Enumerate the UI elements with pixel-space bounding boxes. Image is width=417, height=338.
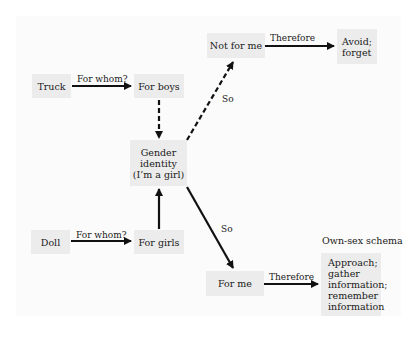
node-not-for-me: Not for me — [207, 33, 265, 58]
node-doll-label: Doll — [41, 237, 60, 248]
node-for-me: For me — [206, 271, 264, 296]
node-for-boys: For boys — [134, 74, 184, 98]
edge-label-so-lower: So — [221, 224, 233, 234]
edge-label-doll-for-whom: For whom? — [76, 230, 127, 240]
node-avoid-forget: Avoid; forget — [337, 29, 377, 64]
node-for-boys-label: For boys — [138, 81, 179, 92]
node-for-girls: For girls — [134, 230, 184, 254]
node-for-girls-label: For girls — [139, 237, 180, 248]
node-not-for-me-label: Not for me — [210, 40, 262, 51]
edge-label-so-upper: So — [222, 94, 234, 104]
node-truck: Truck — [32, 74, 71, 98]
edge-label-therefore-lower: Therefore — [269, 272, 314, 282]
node-approach: Approach; gather information; remember i… — [321, 253, 381, 316]
node-approach-label: Approach; gather information; remember i… — [328, 257, 388, 312]
node-gender-identity: Gender identity (I’m a girl) — [130, 140, 187, 186]
node-avoid-forget-label: Avoid; forget — [342, 36, 372, 58]
node-for-me-label: For me — [218, 278, 252, 289]
own-sex-schema-label: Own-sex schema — [322, 236, 403, 246]
node-doll: Doll — [31, 230, 70, 254]
edge-label-truck-for-whom: For whom? — [77, 74, 128, 84]
edge-label-therefore-upper: Therefore — [270, 33, 315, 43]
node-truck-label: Truck — [37, 81, 65, 92]
node-gender-identity-label: Gender identity (I’m a girl) — [133, 147, 185, 180]
